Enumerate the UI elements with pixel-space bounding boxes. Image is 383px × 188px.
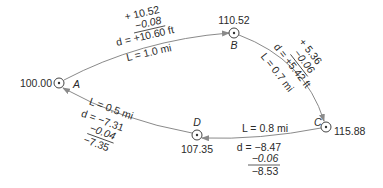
node-d: 107.35 D [181,116,213,155]
label-c: C [314,116,322,128]
label-b: B [230,39,237,51]
annotation-c-d: L = 0.8 mi d = −8.47 −0.06 −8.53 [237,122,288,177]
elevation-a: 100.00 [20,77,52,89]
node-b: 110.52 B [218,14,249,51]
node-a: 100.00 A [20,77,80,90]
node-c: 115.88 C [314,116,365,137]
annotation-b-c: + 5.36 −0.06 d = +5.42 ft L = 0.7 mi [259,26,332,100]
label-d: D [193,116,201,128]
cd-result: −8.53 [252,165,279,177]
level-loop-diagram: 100.00 A 110.52 B 115.88 C 107.35 D + 10… [0,0,383,188]
annotation-d-a: L = 0.5 mi d = −7.31 −0.04 −7.35 [72,94,135,158]
cd-correction: −0.06 [252,152,279,164]
label-a: A [72,78,80,90]
elevation-b: 110.52 [218,14,249,26]
elevation-d: 107.35 [181,143,213,155]
elevation-c: 115.88 [334,125,365,137]
annotation-a-b: + 10.52 −0.08 d = +10.60 ft L = 1.0 mi [110,1,179,65]
cd-length: L = 0.8 mi [242,122,288,134]
